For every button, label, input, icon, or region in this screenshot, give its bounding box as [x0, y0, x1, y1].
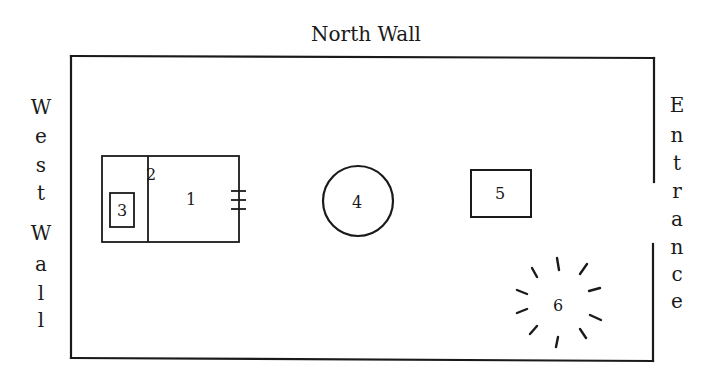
entrance-letter: r — [672, 179, 682, 203]
burst-dash — [580, 264, 587, 274]
burst-dash — [557, 258, 559, 270]
item-1-2-block — [102, 156, 246, 242]
entrance-letter: e — [671, 289, 683, 313]
burst-dash — [589, 288, 600, 291]
burst-dash — [532, 268, 537, 277]
item-3-label: 3 — [117, 201, 127, 220]
west-letter: W — [31, 221, 52, 245]
west-letter: e — [35, 124, 47, 148]
north-wall — [71, 56, 654, 58]
entrance-letter: E — [670, 93, 685, 117]
entrance-letter: n — [671, 123, 684, 147]
west-letter: W — [31, 95, 52, 119]
item-4-label: 4 — [352, 193, 362, 212]
item-5-label: 5 — [495, 184, 505, 203]
entrance-letter: n — [671, 235, 684, 259]
north-wall-label: North Wall — [311, 22, 421, 46]
west-letter: t — [37, 181, 45, 205]
floor-plan-diagram: North Wall W e s t W a l l E n t r a n c… — [0, 0, 707, 385]
entrance-label: E n t r a n c e — [670, 93, 685, 313]
burst-dash — [517, 309, 527, 313]
west-letter: l — [38, 308, 44, 332]
south-wall — [71, 358, 653, 361]
entrance-letter: t — [673, 151, 681, 175]
west-letter: s — [36, 153, 46, 177]
burst-dash — [530, 326, 537, 334]
burst-dash — [517, 290, 527, 294]
west-letter: a — [35, 252, 47, 276]
item-2-label: 2 — [146, 165, 156, 184]
item-6-label: 6 — [553, 296, 563, 315]
burst-dash — [590, 315, 601, 320]
burst-dash — [580, 329, 586, 338]
entrance-letter: c — [671, 262, 682, 286]
west-wall-label: W e s t W a l l — [31, 95, 52, 332]
item-1-label: 1 — [186, 190, 196, 209]
burst-dash — [556, 337, 558, 347]
room-outline — [71, 56, 654, 361]
entrance-letter: a — [671, 207, 683, 231]
item-1-2-outline — [102, 156, 239, 242]
west-letter: l — [38, 281, 44, 305]
